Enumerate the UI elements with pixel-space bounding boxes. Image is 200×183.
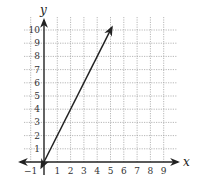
y-tick-label: 1 [34, 144, 40, 154]
line-y-equals-2x [41, 27, 111, 167]
y-axis-label: y [39, 3, 47, 17]
x-tick-label: 2 [68, 166, 74, 176]
x-tick-label: 5 [108, 166, 114, 176]
x-tick-label: 8 [148, 166, 154, 176]
y-tick-label: 5 [34, 91, 40, 101]
x-tick-label: 1 [54, 166, 60, 176]
y-tick-label: 6 [34, 78, 40, 88]
tick-labels: −112345678912345678910 [24, 25, 167, 176]
x-tick-label: 6 [121, 166, 127, 176]
x-tick-label: 7 [134, 166, 140, 176]
y-tick-label: 10 [29, 25, 41, 35]
x-tick-label: 9 [161, 166, 167, 176]
y-tick-label: 3 [34, 117, 40, 127]
y-tick-label: 8 [34, 51, 40, 61]
y-tick-label: 9 [34, 38, 40, 48]
x-tick-label: −1 [24, 166, 37, 176]
coordinate-plane-chart: −112345678912345678910 x y [0, 0, 200, 183]
grid-lines [24, 17, 177, 162]
x-tick-label: 4 [94, 166, 100, 176]
x-tick-label: 3 [81, 166, 87, 176]
data-line [41, 27, 111, 167]
y-tick-label: 4 [34, 104, 40, 114]
x-axis-label: x [183, 155, 190, 169]
y-tick-label: 7 [34, 65, 40, 75]
y-tick-label: 2 [34, 131, 40, 141]
